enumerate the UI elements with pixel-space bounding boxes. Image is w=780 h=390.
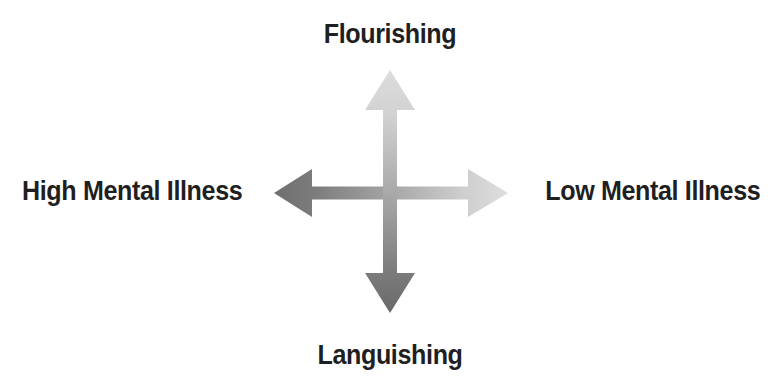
mental-health-quadrant-diagram: Flourishing Languishing High Mental Illn… — [0, 0, 780, 390]
axis-label-low-mental-illness: Low Mental Illness — [545, 178, 760, 205]
axis-label-flourishing: Flourishing — [27, 21, 752, 48]
axis-label-high-mental-illness: High Mental Illness — [22, 178, 242, 205]
axis-label-languishing: Languishing — [27, 342, 752, 369]
